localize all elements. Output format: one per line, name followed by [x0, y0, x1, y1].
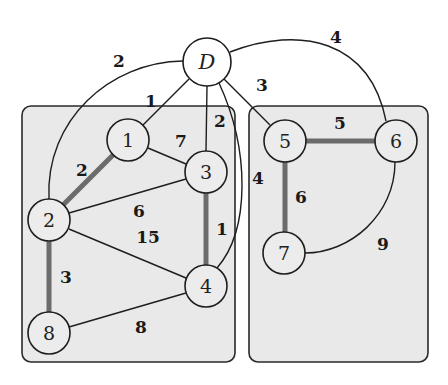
- node-7: 7: [263, 232, 305, 274]
- node-5-label: 5: [279, 130, 291, 152]
- node-3-label: 3: [200, 161, 212, 183]
- node-2: 2: [28, 199, 70, 241]
- weight-6-7: 9: [377, 234, 389, 254]
- node-7-label: 7: [278, 242, 290, 264]
- node-5: 5: [264, 120, 306, 162]
- node-4-label: 4: [200, 275, 212, 297]
- weight-D-4: 4: [252, 168, 264, 188]
- graph-diagram: 2 1 2 4 3 4 2 7 6 15 3 1 8 5 6 9 D 1 2 3…: [0, 0, 448, 385]
- weight-D-5: 3: [256, 75, 268, 95]
- weight-1-2: 2: [76, 160, 88, 180]
- weight-D-3: 2: [214, 111, 226, 131]
- weight-2-4: 15: [136, 227, 160, 247]
- node-D: D: [183, 38, 231, 86]
- node-8-label: 8: [43, 322, 55, 344]
- weight-D-1: 1: [145, 91, 157, 111]
- node-1: 1: [107, 119, 149, 161]
- weight-3-4: 1: [216, 219, 228, 239]
- edge-D-3: [206, 86, 207, 151]
- weight-5-6: 5: [334, 113, 346, 133]
- node-1-label: 1: [122, 129, 134, 151]
- weight-2-3: 6: [133, 201, 145, 221]
- weight-D-6: 4: [330, 27, 342, 47]
- weight-5-7: 6: [295, 187, 307, 207]
- weight-4-8: 8: [135, 317, 147, 337]
- weight-1-3: 7: [175, 131, 187, 151]
- node-4: 4: [185, 265, 227, 307]
- node-3: 3: [185, 151, 227, 193]
- node-8: 8: [28, 312, 70, 354]
- node-D-label: D: [198, 50, 216, 74]
- weight-D-2: 2: [113, 51, 125, 71]
- node-2-label: 2: [43, 209, 55, 231]
- node-6-label: 6: [390, 130, 402, 152]
- node-6: 6: [375, 120, 417, 162]
- weight-2-8: 3: [60, 267, 72, 287]
